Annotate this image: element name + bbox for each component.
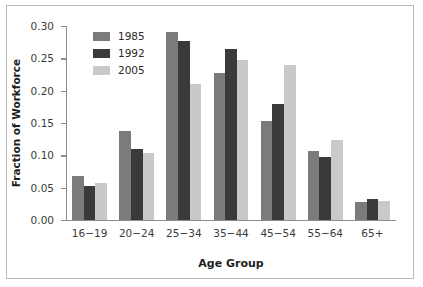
chart-figure: Fraction of Workforce 0.000.050.100.150.… — [6, 5, 414, 279]
x-axis-line — [66, 220, 396, 221]
legend-label: 2005 — [118, 64, 145, 76]
x-axis-tick-label: 25−34 — [166, 227, 202, 239]
legend-swatch-icon — [93, 66, 110, 75]
legend-swatch-icon — [93, 32, 110, 41]
bar-2005-25_34 — [190, 84, 202, 220]
legend-label: 1985 — [118, 30, 145, 42]
x-axis-tick-label: 35−44 — [213, 227, 249, 239]
bar-group — [255, 26, 302, 220]
bar-1992-55_64 — [319, 157, 331, 220]
bar-1985-45_54 — [261, 121, 273, 220]
legend-swatch-icon — [93, 49, 110, 58]
bar-1985-16_19 — [72, 176, 84, 220]
bar-1992-25_34 — [178, 41, 190, 220]
bar-2005-20_24 — [143, 153, 155, 220]
y-axis-tick-label: 0.25 — [31, 52, 54, 64]
bar-1985-35_44 — [214, 73, 226, 220]
bar-1992-20_24 — [131, 149, 143, 220]
bar-2005-65+ — [378, 201, 390, 220]
x-axis-title: Age Group — [66, 257, 396, 270]
x-axis-tick-label: 20−24 — [119, 227, 155, 239]
y-axis-tick: 0.00 — [61, 220, 66, 221]
x-axis-tick-label: 16−19 — [72, 227, 108, 239]
bar-1985-65+ — [355, 202, 367, 220]
bar-1985-55_64 — [308, 151, 320, 220]
bar-group — [160, 26, 207, 220]
chart-legend: 198519922005 — [93, 29, 145, 80]
y-axis-title: Fraction of Workforce — [10, 59, 22, 187]
y-axis-tick-label: 0.30 — [31, 20, 54, 32]
y-axis-tick-label: 0.20 — [31, 85, 54, 97]
bar-2005-55_64 — [331, 140, 343, 220]
bar-group — [302, 26, 349, 220]
y-axis-tick-label: 0.05 — [31, 182, 54, 194]
x-axis-tick-label: 55−64 — [308, 227, 344, 239]
bar-2005-35_44 — [237, 60, 249, 220]
bar-group — [349, 26, 396, 220]
bar-1985-20_24 — [119, 131, 131, 220]
bar-group — [207, 26, 254, 220]
legend-item-1992: 1992 — [93, 46, 145, 60]
bar-1985-25_34 — [166, 32, 178, 220]
y-axis-tick-label: 0.15 — [31, 117, 54, 129]
x-axis-tick-label: 65+ — [361, 227, 383, 239]
bar-1992-45_54 — [272, 104, 284, 220]
x-axis-tick-label: 45−54 — [260, 227, 296, 239]
legend-item-2005: 2005 — [93, 63, 145, 77]
bar-2005-45_54 — [284, 65, 296, 220]
y-axis-tick-label: 0.10 — [31, 149, 54, 161]
bar-1992-16_19 — [84, 186, 96, 220]
bar-2005-16_19 — [95, 183, 107, 220]
bar-1992-65+ — [367, 199, 379, 220]
y-axis-tick-label: 0.00 — [31, 214, 54, 226]
bar-1992-35_44 — [225, 49, 237, 220]
legend-item-1985: 1985 — [93, 29, 145, 43]
legend-label: 1992 — [118, 47, 145, 59]
